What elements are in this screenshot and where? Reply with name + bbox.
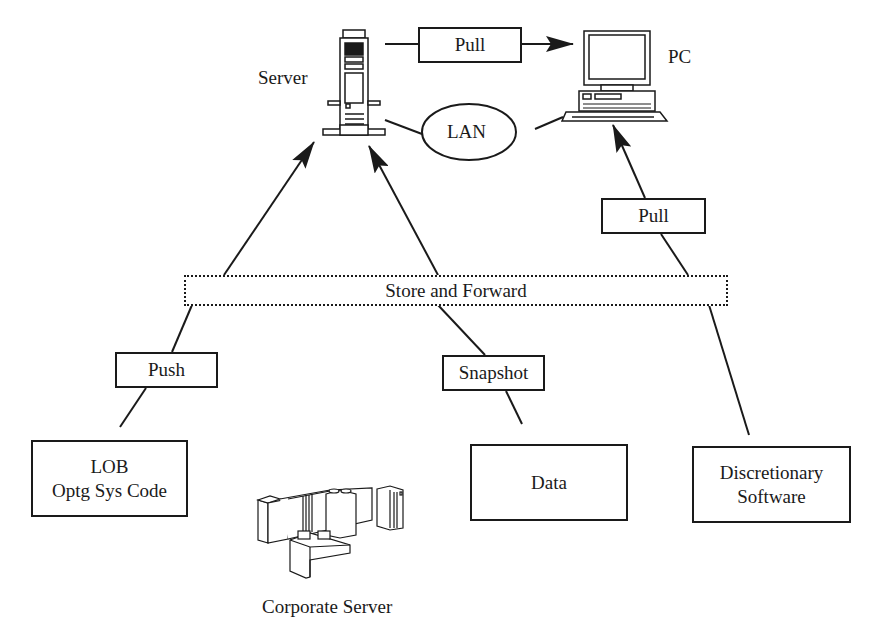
edge-push-store <box>172 305 192 352</box>
pull-top-label: Pull <box>455 33 486 57</box>
push-box: Push <box>115 352 218 388</box>
pull-top-box: Pull <box>418 27 522 63</box>
discretionary-line2: Software <box>737 485 806 509</box>
pull-right-label: Pull <box>638 204 669 228</box>
lob-line1: LOB <box>90 455 128 479</box>
mainframe-icon <box>258 486 403 578</box>
edge-pull-pc-right <box>613 125 645 198</box>
edge-lob-push <box>120 388 146 427</box>
edge-store-server-right <box>369 146 438 275</box>
discretionary-line1: Discretionary <box>720 461 823 485</box>
pc-label: PC <box>668 46 691 68</box>
data-box: Data <box>470 444 628 521</box>
snapshot-label: Snapshot <box>459 361 529 385</box>
desktop-pc-icon <box>562 31 667 121</box>
edge-lan-pc <box>535 117 563 129</box>
edge-server-lan <box>385 120 422 134</box>
store-and-forward-box: Store and Forward <box>184 275 728 306</box>
lan-label: LAN <box>447 121 486 143</box>
snapshot-box: Snapshot <box>442 355 545 391</box>
corporate-server-label: Corporate Server <box>262 596 392 618</box>
tower-server-icon <box>323 30 385 135</box>
edge-snapshot-store <box>438 305 485 355</box>
edge-discretionary-store <box>709 305 749 435</box>
data-label: Data <box>531 471 567 495</box>
push-label: Push <box>148 358 185 382</box>
pull-right-box: Pull <box>601 198 706 234</box>
lob-line2: Optg Sys Code <box>52 479 167 503</box>
edge-data-snapshot <box>506 391 522 424</box>
diagram-canvas <box>0 0 870 635</box>
lob-box: LOB Optg Sys Code <box>31 440 188 517</box>
discretionary-software-box: Discretionary Software <box>692 446 851 523</box>
edge-store-pull <box>661 234 688 275</box>
server-label: Server <box>258 67 308 89</box>
edge-store-server-left <box>224 142 314 275</box>
store-and-forward-label: Store and Forward <box>385 279 526 303</box>
